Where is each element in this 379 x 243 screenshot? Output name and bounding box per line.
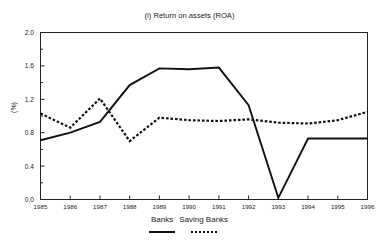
y-tick-label: 1.2 bbox=[14, 96, 34, 103]
legend-swatch-banks bbox=[149, 231, 175, 233]
chart-legend: Banks Saving Banks bbox=[0, 214, 379, 237]
x-tick-label: 1989 bbox=[144, 203, 174, 210]
x-tick-label: 1988 bbox=[115, 203, 145, 210]
x-tick-label: 1985 bbox=[26, 203, 56, 210]
x-tick-label: 1986 bbox=[55, 203, 85, 210]
legend-label-banks: Banks bbox=[151, 214, 173, 225]
axes-frame bbox=[41, 33, 368, 200]
x-axis-ticks bbox=[41, 196, 368, 200]
x-tick-label: 1994 bbox=[293, 203, 323, 210]
y-tick-label: 1.6 bbox=[14, 62, 34, 69]
legend-swatch-row bbox=[0, 227, 379, 237]
series-line-saving-banks bbox=[41, 98, 368, 141]
legend-label-saving-banks: Saving Banks bbox=[179, 214, 228, 225]
data-series-layer bbox=[41, 68, 368, 198]
y-axis-ticks bbox=[41, 33, 45, 200]
x-tick-label: 1992 bbox=[234, 203, 264, 210]
legend-swatch-saving-banks bbox=[191, 231, 217, 233]
x-tick-label: 1990 bbox=[174, 203, 204, 210]
x-tick-label: 1996 bbox=[353, 203, 379, 210]
series-line-banks bbox=[41, 68, 368, 198]
y-tick-label: 2.0 bbox=[14, 29, 34, 36]
chart-figure: (i) Return on assets (ROA) (%) 0.00.40.8… bbox=[0, 0, 379, 243]
x-tick-label: 1995 bbox=[323, 203, 353, 210]
x-tick-label: 1987 bbox=[85, 203, 115, 210]
x-tick-label: 1993 bbox=[263, 203, 293, 210]
legend-label-row: Banks Saving Banks bbox=[0, 214, 379, 225]
y-tick-label: 0.4 bbox=[14, 163, 34, 170]
x-tick-label: 1991 bbox=[204, 203, 234, 210]
y-tick-label: 0.8 bbox=[14, 129, 34, 136]
